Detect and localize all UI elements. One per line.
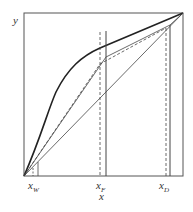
tick-label-xw: xW xyxy=(28,180,39,194)
tick-label-xf: xF xyxy=(96,180,105,194)
tick-label-xd: xD xyxy=(159,180,169,194)
diagonal-line xyxy=(24,13,183,176)
y-axis-label: y xyxy=(13,15,18,26)
